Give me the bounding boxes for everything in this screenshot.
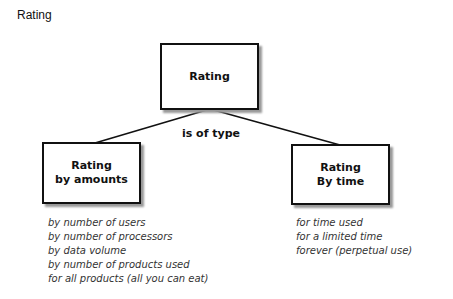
relation-label: is of type [160, 127, 262, 140]
list-item: for time used [296, 216, 412, 230]
list-item: by number of users [48, 216, 208, 230]
node-left-line-1: Rating [55, 159, 128, 173]
node-rating-label: Rating [189, 70, 230, 84]
node-rating: Rating [160, 43, 259, 110]
list-item: for all products (all you can eat) [48, 272, 208, 286]
list-item: by number of processors [48, 230, 208, 244]
list-item: forever (perpetual use) [296, 244, 412, 258]
node-left-line-2: by amounts [55, 173, 128, 187]
amounts-list: by number of users by number of processo… [48, 216, 208, 286]
time-list: for time used for a limited time forever… [296, 216, 412, 258]
node-right-line-1: Rating [317, 161, 364, 175]
list-item: for a limited time [296, 230, 412, 244]
node-rating-by-amounts: Rating by amounts [42, 142, 141, 204]
list-item: by data volume [48, 244, 208, 258]
node-rating-by-time: Rating By time [291, 144, 390, 205]
node-right-line-2: By time [317, 175, 364, 189]
list-item: by number of products used [48, 258, 208, 272]
